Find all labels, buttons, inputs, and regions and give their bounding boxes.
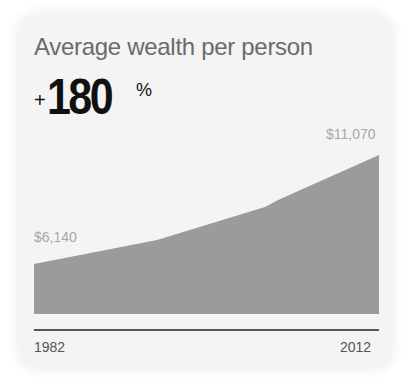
area-chart bbox=[0, 0, 408, 387]
area-series bbox=[34, 155, 379, 314]
end-value-label: $11,070 bbox=[326, 126, 376, 142]
start-value-label: $6,140 bbox=[34, 229, 77, 245]
x-tick-start: 1982 bbox=[34, 339, 65, 355]
x-tick-end: 2012 bbox=[340, 339, 371, 355]
